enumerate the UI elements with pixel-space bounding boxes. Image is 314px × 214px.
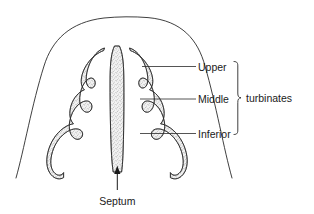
label-inferior: Inferior (198, 128, 231, 140)
label-septum: Septum (99, 195, 135, 207)
nasal-cavity-diagram: Upper Middle Inferior turbinates Septum (0, 0, 314, 214)
label-turbinates-group: turbinates (246, 92, 292, 104)
turbinate-mass-left (47, 48, 105, 179)
curly-brace (234, 62, 241, 135)
label-upper: Upper (198, 61, 227, 73)
diagram-canvas: Upper Middle Inferior turbinates Septum (0, 0, 314, 214)
nasal-septum (110, 46, 124, 172)
label-middle: Middle (198, 93, 229, 105)
turbinate-mass-right (130, 48, 188, 179)
